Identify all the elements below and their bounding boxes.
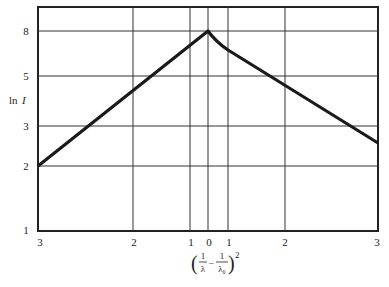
- y-tick-labels: 8 5 3 2 1: [23, 25, 29, 236]
- x-gridlines: [133, 7, 285, 231]
- svg-text:2: 2: [23, 160, 29, 172]
- chart: 8 5 3 2 1 ln I 3 2 1 0 1 2 3 ( 1 λ – 1 λ…: [0, 0, 389, 287]
- y-axis-label: ln I: [9, 94, 27, 106]
- svg-text:λ: λ: [201, 264, 206, 274]
- left-paren: (: [191, 252, 198, 275]
- svg-text:ln: ln: [9, 94, 18, 106]
- svg-text:8: 8: [23, 25, 29, 37]
- svg-text:1: 1: [188, 236, 194, 248]
- svg-text:I: I: [21, 94, 27, 106]
- minus-sign: –: [208, 257, 214, 267]
- svg-text:2: 2: [131, 236, 137, 248]
- svg-text:1: 1: [201, 251, 206, 261]
- svg-text:0: 0: [206, 236, 212, 248]
- right-paren: ): [228, 252, 235, 275]
- svg-text:2: 2: [282, 236, 288, 248]
- svg-text:1: 1: [226, 236, 232, 248]
- svg-text:3: 3: [23, 120, 29, 132]
- svg-text:5: 5: [23, 70, 29, 82]
- x-axis-label: ( 1 λ – 1 λ₀ ) 2: [191, 250, 240, 275]
- svg-text:2: 2: [235, 250, 240, 260]
- svg-text:1: 1: [220, 251, 225, 261]
- svg-text:1: 1: [23, 224, 29, 236]
- x-tick-labels: 3 2 1 0 1 2 3: [37, 236, 380, 248]
- svg-text:λ₀: λ₀: [218, 264, 226, 274]
- svg-text:3: 3: [374, 236, 380, 248]
- svg-text:3: 3: [37, 236, 43, 248]
